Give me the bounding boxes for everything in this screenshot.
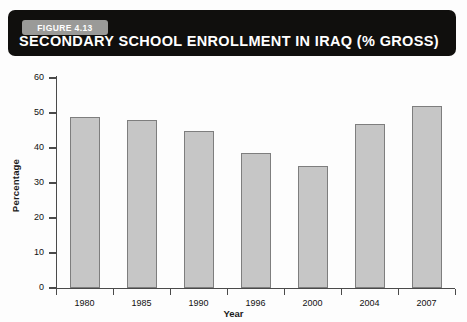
bar-2007 (412, 106, 442, 288)
x-axis-tick (341, 289, 342, 295)
x-axis-tick-label: 1980 (55, 298, 115, 308)
y-axis-tick (49, 112, 56, 113)
figure-number-label: FIGURE 4.13 (37, 23, 92, 33)
x-axis-tick-label: 1985 (112, 298, 172, 308)
y-axis-tick-label: 50 (10, 107, 44, 117)
y-axis-tick (49, 182, 56, 183)
y-axis-tick-label: 30 (10, 177, 44, 187)
y-axis-tick (49, 217, 56, 218)
bar-1985 (127, 120, 157, 288)
y-axis-tick-label: 20 (10, 212, 44, 222)
y-axis-tick (49, 77, 56, 78)
y-axis-tick (49, 287, 56, 288)
x-axis-tick (227, 289, 228, 295)
figure-banner: FIGURE 4.13 SECONDARY SCHOOL ENROLLMENT … (8, 10, 456, 56)
x-axis-tick (398, 289, 399, 295)
x-axis-tick (56, 289, 57, 295)
x-axis-tick-label: 2007 (397, 298, 457, 308)
bar-1996 (241, 153, 271, 288)
bar-2004 (355, 124, 385, 289)
x-axis-title: Year (0, 308, 467, 319)
y-axis-tick (49, 252, 56, 253)
x-axis-tick (284, 289, 285, 295)
bar-2000 (298, 166, 328, 289)
x-axis-line (56, 288, 455, 289)
x-axis-tick-label: 1990 (169, 298, 229, 308)
y-axis-tick (49, 147, 56, 148)
figure-container: FIGURE 4.13 SECONDARY SCHOOL ENROLLMENT … (0, 0, 467, 322)
x-axis-tick (455, 289, 456, 295)
x-axis-tick-label: 1996 (226, 298, 286, 308)
y-axis-line (56, 76, 57, 289)
y-axis-tick-label: 60 (10, 72, 44, 82)
y-axis-tick-label: 0 (10, 282, 44, 292)
y-axis-tick-label: 40 (10, 142, 44, 152)
bar-1990 (184, 131, 214, 289)
bar-1980 (70, 117, 100, 289)
x-axis-tick (170, 289, 171, 295)
figure-title: SECONDARY SCHOOL ENROLLMENT IN IRAQ (% G… (8, 34, 450, 49)
y-axis-tick-label: 10 (10, 247, 44, 257)
x-axis-tick-label: 2000 (283, 298, 343, 308)
x-axis-tick (113, 289, 114, 295)
chart-plot-area: Percentage Year 0102030405060 1980198519… (0, 60, 467, 322)
x-axis-tick-label: 2004 (340, 298, 400, 308)
